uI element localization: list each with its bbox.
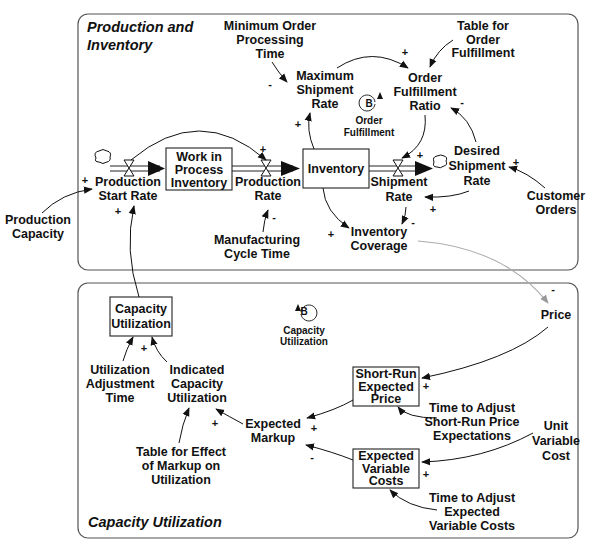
svg-text:Time to Adjust: Time to Adjust: [429, 491, 516, 505]
svg-text:Process: Process: [175, 163, 224, 177]
stock-work-in-process-inventory[interactable]: Work in Process Inventory: [166, 148, 232, 190]
var-production-start-rate[interactable]: Production Start Rate: [95, 175, 161, 203]
svg-text:Rate: Rate: [463, 174, 490, 188]
svg-text:Coverage: Coverage: [351, 239, 408, 253]
link-coverage-to-price: [418, 241, 548, 303]
sign-plus: +: [513, 156, 519, 168]
svg-text:Order: Order: [466, 33, 500, 47]
stock-inventory[interactable]: Inventory: [303, 149, 369, 188]
svg-text:Processing: Processing: [236, 33, 303, 47]
svg-text:Fulfillment: Fulfillment: [393, 85, 457, 99]
var-manufacturing-cycle-time[interactable]: Manufacturing Cycle Time: [214, 233, 300, 261]
link-shipment-to-coverage: [402, 207, 406, 224]
link-min-order-to-max-shipment: [272, 62, 287, 82]
svg-text:Expected: Expected: [358, 449, 414, 463]
stock-expected-variable-costs[interactable]: Expected Variable Costs: [353, 449, 419, 488]
svg-text:Inventory: Inventory: [308, 162, 364, 176]
link-capacity-to-start: [42, 189, 92, 213]
link-srep-to-markup: [307, 400, 353, 418]
svg-text:Time to Adjust: Time to Adjust: [429, 401, 516, 415]
svg-text:Variable: Variable: [532, 434, 580, 448]
var-time-adjust-expected-variable-costs[interactable]: Time to Adjust Expected Variable Costs: [429, 491, 516, 533]
sink-cloud-icon: [433, 155, 446, 168]
sign-minus: -: [310, 451, 314, 463]
svg-text:Price: Price: [541, 308, 572, 322]
var-table-effect-markup-utilization[interactable]: Table for Effect of Markup on Utilizatio…: [136, 445, 227, 487]
sign-plus: +: [115, 205, 121, 217]
link-max-ship-to-ofr: [337, 57, 408, 69]
var-expected-markup[interactable]: Expected Markup: [245, 417, 301, 445]
valve-icon: [124, 160, 134, 176]
sign-plus: +: [82, 174, 88, 186]
svg-text:Production: Production: [95, 175, 161, 189]
sector-title-capacity: Capacity Utilization: [88, 514, 222, 530]
svg-text:Cycle Time: Cycle Time: [224, 247, 290, 261]
link-inventory-to-max-ship: [309, 113, 314, 149]
sign-plus: +: [423, 468, 429, 480]
sign-plus: +: [430, 203, 436, 215]
svg-text:Short-Run Price: Short-Run Price: [424, 415, 519, 429]
svg-text:Manufacturing: Manufacturing: [214, 233, 300, 247]
svg-text:Minimum Order: Minimum Order: [224, 19, 317, 33]
svg-text:Rate: Rate: [311, 97, 338, 111]
causal-loop-diagram: Production and Inventory Capacity Utiliz…: [0, 0, 594, 545]
var-time-adjust-short-run-price[interactable]: Time to Adjust Short-Run Price Expectati…: [424, 401, 519, 443]
var-production-capacity[interactable]: Production Capacity: [5, 213, 71, 241]
svg-text:Markup: Markup: [251, 431, 296, 445]
var-utilization-adjustment-time[interactable]: Utilization Adjustment Time: [86, 363, 156, 405]
sign-plus: +: [423, 380, 429, 392]
link-dsr-to-ofr: [451, 108, 476, 142]
svg-text:Rate: Rate: [385, 190, 412, 204]
link-table-to-ofr: [430, 40, 453, 67]
loop-order-fulfillment: B Order Fulfillment: [344, 92, 395, 138]
svg-text:Table for: Table for: [457, 19, 509, 33]
var-unit-variable-cost[interactable]: Unit Variable Cost: [532, 419, 580, 463]
var-price[interactable]: Price: [541, 308, 572, 322]
svg-text:Fulfillment: Fulfillment: [344, 127, 395, 138]
var-desired-shipment-rate[interactable]: Desired Shipment Rate: [449, 144, 507, 188]
sign-minus: -: [551, 283, 555, 295]
var-maximum-shipment-rate[interactable]: Maximum Shipment Rate: [296, 69, 354, 111]
svg-text:Customer: Customer: [527, 189, 585, 203]
link-orders-to-dsr: [509, 167, 545, 188]
svg-text:Expected: Expected: [444, 505, 500, 519]
sign-plus: +: [311, 422, 317, 434]
var-customer-orders[interactable]: Customer Orders: [527, 189, 585, 217]
svg-text:Capacity: Capacity: [171, 377, 223, 391]
link-icu-to-cu: [152, 337, 167, 362]
sign-minus: -: [411, 216, 415, 228]
svg-text:Indicated: Indicated: [170, 363, 225, 377]
var-indicated-capacity-utilization[interactable]: Indicated Capacity Utilization: [167, 363, 227, 405]
stock-capacity-utilization[interactable]: Capacity Utilization: [110, 297, 172, 336]
svg-text:Shipment: Shipment: [297, 83, 355, 97]
link-price-to-srep: [422, 327, 548, 378]
var-production-rate[interactable]: Production Rate: [235, 175, 301, 203]
svg-text:Utilization: Utilization: [280, 336, 328, 347]
svg-text:B: B: [300, 306, 307, 317]
svg-text:Inventory: Inventory: [351, 225, 407, 239]
svg-text:Shipment: Shipment: [449, 159, 507, 173]
var-order-fulfillment-ratio[interactable]: Order Fulfillment Ratio: [393, 71, 457, 113]
svg-text:of Markup on: of Markup on: [142, 459, 220, 473]
sign-plus: +: [141, 342, 147, 354]
svg-text:Utilization: Utilization: [167, 391, 227, 405]
svg-text:Utilization: Utilization: [111, 317, 171, 331]
var-minimum-order-processing-time[interactable]: Minimum Order Processing Time: [224, 19, 317, 61]
sign-plus: +: [295, 118, 301, 130]
sign-plus: +: [260, 143, 266, 155]
svg-text:Variable Costs: Variable Costs: [429, 519, 515, 533]
var-inventory-coverage[interactable]: Inventory Coverage: [351, 225, 408, 253]
stock-short-run-expected-price[interactable]: Short-Run Expected Price: [353, 367, 419, 406]
svg-text:Short-Run: Short-Run: [355, 367, 416, 381]
svg-text:Utilization: Utilization: [90, 363, 150, 377]
var-shipment-rate[interactable]: Shipment Rate: [371, 175, 429, 204]
var-table-for-order-fulfillment[interactable]: Table for Order Fulfillment: [451, 19, 515, 60]
svg-text:Costs: Costs: [369, 474, 404, 488]
svg-text:Rate: Rate: [254, 189, 281, 203]
svg-text:Time: Time: [106, 391, 135, 405]
svg-text:B: B: [365, 98, 372, 109]
svg-text:Cost: Cost: [542, 449, 571, 463]
svg-text:Order: Order: [355, 115, 382, 126]
link-table-markup-to-icu: [179, 408, 189, 443]
link-mct-to-production-rate: [263, 210, 268, 232]
